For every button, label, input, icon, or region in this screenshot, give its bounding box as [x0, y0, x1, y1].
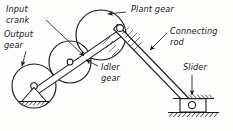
label-idler-gear-line1: Idler: [101, 62, 120, 72]
diagram-canvas: Input crank Output gear Plant gear Conne…: [0, 0, 233, 131]
linkage-diagram: Input crank Output gear Plant gear Conne…: [0, 0, 233, 131]
label-input-crank-line1: Input: [6, 4, 28, 14]
crank-pin-joint: [117, 25, 124, 32]
idler-pivot-joint: [67, 59, 73, 65]
slider-guide-hatching: [189, 95, 213, 99]
slider-ground-hatching: [169, 113, 218, 117]
label-output-gear-line1: Output: [4, 29, 34, 39]
leader-output-gear: [22, 51, 26, 66]
slider-assembly: [168, 95, 219, 117]
leader-idler-gear: [86, 60, 98, 66]
leader-connecting-rod: [150, 33, 167, 50]
label-connecting-rod-line1: Connecting: [170, 26, 218, 36]
label-output-gear-line2: gear: [4, 40, 24, 50]
label-plant-gear: Plant gear: [131, 4, 174, 14]
output-gear-ground-support: [19, 88, 49, 106]
slider-pin-joint: [188, 101, 195, 108]
label-slider: Slider: [183, 62, 207, 72]
label-connecting-rod-line2: rod: [170, 37, 185, 47]
label-input-crank-line2: crank: [6, 15, 30, 25]
label-idler-gear-line2: gear: [101, 73, 121, 83]
